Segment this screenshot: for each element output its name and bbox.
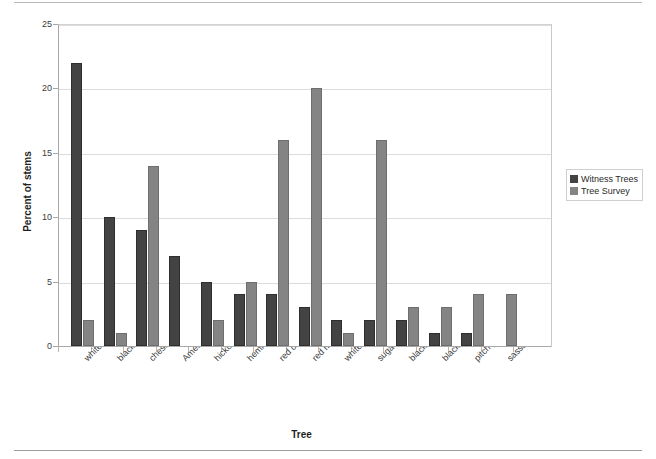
bar[interactable] xyxy=(213,320,224,346)
x-axis-line xyxy=(59,346,551,347)
bar[interactable] xyxy=(83,320,94,346)
gridline xyxy=(59,25,551,26)
bar[interactable] xyxy=(396,320,407,346)
bar[interactable] xyxy=(71,63,82,346)
bar[interactable] xyxy=(266,294,277,346)
gridline xyxy=(59,89,551,90)
chart-figure: Percent of stems Tree 0510152025 white o… xyxy=(0,0,656,459)
bar[interactable] xyxy=(148,166,159,346)
y-tick-label: 5 xyxy=(22,277,52,287)
bar[interactable] xyxy=(136,230,147,346)
gridline xyxy=(59,283,551,284)
legend-label: Tree Survey xyxy=(581,185,630,197)
x-tick-mark xyxy=(58,347,59,352)
plot-area xyxy=(58,24,552,347)
bar[interactable] xyxy=(278,140,289,346)
bottom-divider xyxy=(14,450,642,451)
top-divider xyxy=(14,2,642,3)
bar[interactable] xyxy=(408,307,419,346)
bar[interactable] xyxy=(169,256,180,346)
y-tick-label: 15 xyxy=(22,148,52,158)
y-tick-label: 10 xyxy=(22,212,52,222)
bar[interactable] xyxy=(364,320,375,346)
legend-swatch-icon xyxy=(570,175,578,183)
x-axis-title: Tree xyxy=(0,429,603,440)
bar[interactable] xyxy=(343,333,354,346)
bar[interactable] xyxy=(473,294,484,346)
bar[interactable] xyxy=(116,333,127,346)
y-tick-label: 25 xyxy=(22,19,52,29)
bar[interactable] xyxy=(299,307,310,346)
bar[interactable] xyxy=(104,217,115,346)
bar[interactable] xyxy=(246,282,257,346)
bar[interactable] xyxy=(376,140,387,346)
y-axis-title: Percent of stems xyxy=(22,102,33,282)
gridline xyxy=(59,154,551,155)
bar[interactable] xyxy=(201,282,212,346)
legend-swatch-icon xyxy=(570,187,578,195)
legend-item[interactable]: Witness Trees xyxy=(570,173,638,185)
bar[interactable] xyxy=(461,333,472,346)
legend-item[interactable]: Tree Survey xyxy=(570,185,638,197)
bar[interactable] xyxy=(331,320,342,346)
y-tick-label: 20 xyxy=(22,83,52,93)
legend-label: Witness Trees xyxy=(581,173,638,185)
gridline xyxy=(59,218,551,219)
chart-legend: Witness TreesTree Survey xyxy=(566,169,643,201)
y-tick-label: 0 xyxy=(22,341,52,351)
bar[interactable] xyxy=(234,294,245,346)
bar[interactable] xyxy=(506,294,517,346)
bar[interactable] xyxy=(441,307,452,346)
bar[interactable] xyxy=(311,88,322,346)
bar[interactable] xyxy=(429,333,440,346)
